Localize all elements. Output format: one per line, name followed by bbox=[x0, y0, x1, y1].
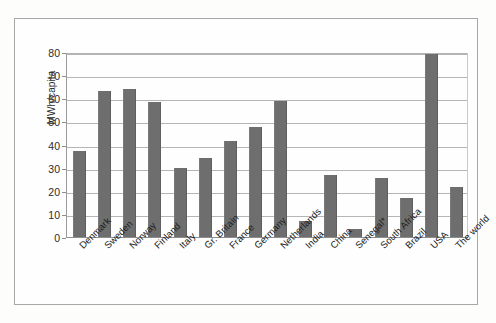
chart-figure: MWh/capita 01020304050607080 DenmarkSwed… bbox=[0, 0, 496, 323]
plot-area bbox=[66, 53, 468, 238]
y-tick-label: 60 bbox=[34, 94, 60, 104]
bar bbox=[73, 151, 86, 237]
y-tick-label: 70 bbox=[34, 71, 60, 81]
y-tick-label: 50 bbox=[34, 117, 60, 127]
bar bbox=[199, 158, 212, 237]
y-tick-label: 30 bbox=[34, 164, 60, 174]
bar bbox=[425, 53, 438, 237]
y-tick-mark bbox=[62, 238, 66, 239]
y-tick-label: 20 bbox=[34, 187, 60, 197]
gridline bbox=[67, 54, 467, 55]
y-tick-label: 10 bbox=[34, 210, 60, 220]
bar bbox=[123, 89, 136, 237]
bar bbox=[249, 127, 262, 237]
y-tick-label: 40 bbox=[34, 141, 60, 151]
y-tick-label: 80 bbox=[34, 48, 60, 58]
bar bbox=[324, 175, 337, 237]
y-tick-label: 0 bbox=[34, 233, 60, 243]
bar bbox=[450, 187, 463, 237]
gridline bbox=[67, 77, 467, 78]
bar bbox=[148, 102, 161, 237]
